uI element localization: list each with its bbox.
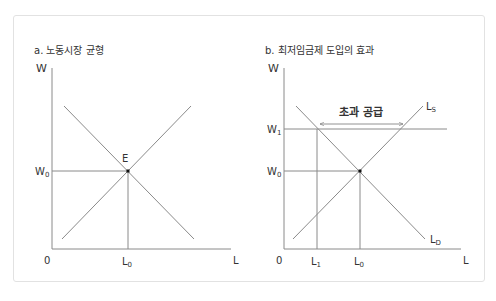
panel-a-equilibrium-label: E — [122, 153, 128, 164]
panel-b-origin-label: 0 — [276, 255, 282, 266]
panel-b-l0-label: L0 — [354, 256, 364, 269]
diagram-canvas: W L 0 E W0 L0 초과 공급 W L 0 W1 W0 L1 L0 LS… — [0, 0, 496, 301]
panel-b-supply-label: LS — [426, 101, 437, 114]
panel-b-l1-label: L1 — [311, 256, 321, 269]
panel-b-y-axis-label: W — [268, 62, 279, 75]
panel-a-w0-label: W0 — [35, 166, 49, 179]
panel-b-w1-label: W1 — [267, 124, 281, 137]
panel-b-demand-label: LD — [430, 234, 441, 247]
panel-b-surplus-label: 초과 공급 — [339, 105, 383, 119]
panel-a-origin-label: 0 — [44, 255, 50, 266]
panel-a: W L 0 E W0 L0 — [35, 62, 239, 269]
panel-b-equilibrium-point — [359, 170, 362, 173]
panel-a-x-axis-label: L — [233, 255, 239, 266]
panel-a-l0-label: L0 — [122, 256, 132, 269]
panel-b: 초과 공급 W L 0 W1 W0 L1 L0 LS LD — [267, 62, 469, 269]
panel-a-y-axis-label: W — [36, 62, 47, 75]
panel-b-x-axis-label: L — [463, 255, 469, 266]
panel-b-w0-label: W0 — [267, 166, 281, 179]
panel-b-supply-curve — [293, 106, 423, 239]
panel-a-equilibrium-point — [127, 170, 130, 173]
